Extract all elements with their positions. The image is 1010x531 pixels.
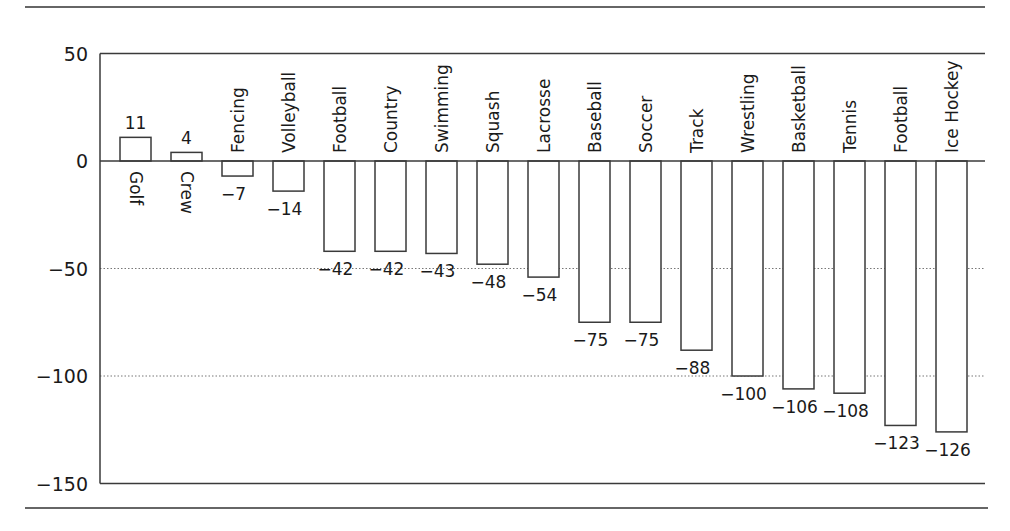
bar-value-label: 4 <box>181 128 192 148</box>
bar-group: −75Baseball <box>573 81 610 350</box>
bar-value-label: −42 <box>318 259 354 279</box>
bar-category-label: Baseball <box>585 81 605 153</box>
bar-category-label: Football <box>891 86 911 153</box>
bar <box>885 161 916 425</box>
bar-chart: 500−50−100−150 11Golf4Crew−7Fencing−14Vo… <box>0 0 1010 531</box>
bar <box>630 161 661 322</box>
bar-group: −106Basketball <box>771 65 818 417</box>
bar-group: −75Soccer <box>624 96 661 351</box>
bar-value-label: −75 <box>573 330 609 350</box>
bar-category-label: Track <box>687 108 707 154</box>
bar <box>222 161 253 176</box>
bar-category-label: Wrestling <box>738 73 758 153</box>
bar-value-label: −14 <box>267 199 303 219</box>
bar-value-label: −75 <box>624 330 660 350</box>
bar-group: −14Volleyball <box>267 72 304 219</box>
bar-category-label: Swimming <box>432 64 452 153</box>
bar-value-label: −42 <box>369 259 405 279</box>
bar <box>120 137 151 161</box>
bar <box>732 161 763 376</box>
bar-category-label: Volleyball <box>279 72 299 153</box>
bar <box>375 161 406 251</box>
bar-value-label: −88 <box>675 358 711 378</box>
bar <box>783 161 814 389</box>
bar-value-label: −126 <box>924 440 971 460</box>
bar-group: −42Football <box>318 86 355 280</box>
bar-value-label: −7 <box>221 184 246 204</box>
bar-group: −48Squash <box>471 91 508 293</box>
bar-group: −54Lacrosse <box>522 79 559 306</box>
bar <box>936 161 967 432</box>
y-tick-label: 50 <box>64 43 88 65</box>
bar <box>528 161 559 277</box>
bar-category-label: Crew <box>177 171 197 214</box>
bar-value-label: −108 <box>822 401 869 421</box>
bar-value-label: −106 <box>771 397 818 417</box>
bar-category-label: Squash <box>483 91 503 153</box>
bar-category-label: Fencing <box>228 87 248 153</box>
bar <box>171 152 202 161</box>
bar-group: −88Track <box>675 108 712 378</box>
bar-category-label: Soccer <box>636 96 656 153</box>
bar-value-label: −100 <box>720 384 767 404</box>
bar-group: −123Football <box>873 86 920 454</box>
bar-value-label: 11 <box>125 113 147 133</box>
bar-group: −42Country <box>369 85 406 279</box>
bar-group: 4Crew <box>171 128 202 214</box>
y-tick-label: −100 <box>36 365 88 387</box>
y-axis-tick-labels: 500−50−100−150 <box>36 43 88 495</box>
y-tick-label: −50 <box>48 258 88 280</box>
bar-category-label: Country <box>381 85 401 153</box>
y-tick-label: 0 <box>76 150 88 172</box>
bar-group: −108Tennis <box>822 100 869 421</box>
bar-category-label: Lacrosse <box>534 79 554 153</box>
bar-value-label: −43 <box>420 261 456 281</box>
bar-value-label: −48 <box>471 272 507 292</box>
bar <box>681 161 712 350</box>
bar <box>579 161 610 322</box>
bar-category-label: Tennis <box>840 100 860 154</box>
bar-category-label: Football <box>330 86 350 153</box>
bar <box>477 161 508 264</box>
bar-category-label: Basketball <box>789 65 809 153</box>
bar-value-label: −54 <box>522 285 558 305</box>
bar <box>324 161 355 251</box>
bar-group: −100Wrestling <box>720 73 767 404</box>
y-tick-label: −150 <box>36 473 88 495</box>
bar-category-label: Golf <box>126 171 146 206</box>
bar <box>273 161 304 191</box>
bars: 11Golf4Crew−7Fencing−14Volleyball−42Foot… <box>120 60 971 459</box>
bar-value-label: −123 <box>873 433 920 453</box>
bar-group: −126Ice Hockey <box>924 60 971 459</box>
bar-group: −7Fencing <box>221 87 253 204</box>
bar-category-label: Ice Hockey <box>942 60 962 153</box>
bar <box>426 161 457 253</box>
bar <box>834 161 865 393</box>
bar-group: 11Golf <box>120 113 151 206</box>
bar-group: −43Swimming <box>420 64 457 281</box>
